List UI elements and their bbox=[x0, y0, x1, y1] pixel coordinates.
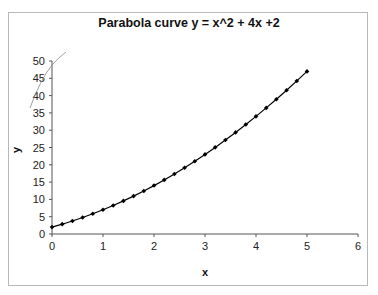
axes bbox=[49, 61, 358, 237]
y-tick-label: 35 bbox=[33, 107, 45, 119]
x-tick-label: 5 bbox=[304, 240, 310, 252]
data-point-marker bbox=[70, 219, 75, 224]
y-tick-label: 10 bbox=[33, 193, 45, 205]
data-point-marker bbox=[60, 222, 65, 227]
series-markers bbox=[50, 69, 310, 229]
x-tick-label: 0 bbox=[49, 240, 55, 252]
y-tick-label: 15 bbox=[33, 176, 45, 188]
y-tick-label: 30 bbox=[33, 124, 45, 136]
x-axis-title: x bbox=[202, 266, 209, 278]
x-tick-labels: 0123456 bbox=[49, 240, 361, 252]
data-point-marker bbox=[152, 183, 157, 188]
y-tick-label: 20 bbox=[33, 159, 45, 171]
data-point-marker bbox=[142, 189, 147, 194]
data-point-marker bbox=[131, 194, 136, 199]
y-tick-labels: 05101520253035404550 bbox=[33, 55, 45, 240]
x-tick-label: 2 bbox=[151, 240, 157, 252]
y-tick-label: 0 bbox=[39, 228, 45, 240]
data-point-marker bbox=[121, 199, 126, 204]
series-line bbox=[52, 71, 307, 227]
x-tick-label: 6 bbox=[355, 240, 361, 252]
plot-area: 05101520253035404550 0123456 x y bbox=[0, 0, 378, 295]
x-tick-label: 4 bbox=[253, 240, 259, 252]
y-tick-label: 50 bbox=[33, 55, 45, 67]
y-tick-label: 5 bbox=[39, 211, 45, 223]
data-point-marker bbox=[101, 207, 106, 212]
x-tick-label: 3 bbox=[202, 240, 208, 252]
y-axis-title: y bbox=[10, 146, 22, 153]
data-point-marker bbox=[91, 211, 96, 216]
data-point-marker bbox=[80, 215, 85, 220]
data-point-marker bbox=[50, 225, 55, 230]
x-tick-label: 1 bbox=[100, 240, 106, 252]
data-point-marker bbox=[111, 203, 116, 208]
y-tick-label: 25 bbox=[33, 142, 45, 154]
